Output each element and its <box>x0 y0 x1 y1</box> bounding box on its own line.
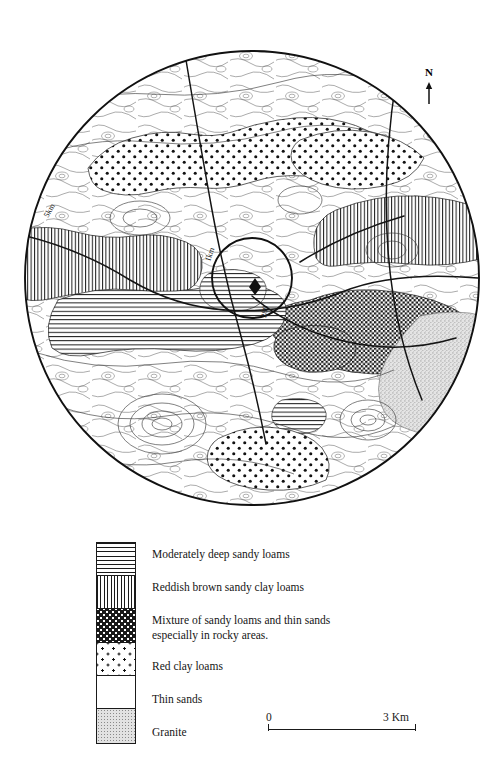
legend-label-mixture-sandy-loams-thin-sands: Mixture of sandy loams and thin sands es… <box>152 613 330 643</box>
scale-label-min: 0 <box>266 711 272 723</box>
scale-label-max: 3 Km <box>383 711 409 723</box>
legend-swatch-red-clay-loams <box>97 643 135 676</box>
legend-swatch-moderately-deep-sandy-loams <box>97 543 135 576</box>
map-legend: Moderately deep sandy loams Reddish brow… <box>0 528 503 758</box>
scale-bar: 0 3 Km <box>265 711 420 741</box>
scale-bar-line <box>268 729 416 730</box>
soil-map-figure: 5km 1km 280 N <box>0 0 503 520</box>
legend-label-moderately-deep-sandy-loams: Moderately deep sandy loams <box>152 547 290 562</box>
legend-swatch-granite <box>97 709 135 743</box>
legend-pattern-column <box>96 542 136 744</box>
scale-tick-right <box>415 724 416 731</box>
map-canvas: 5km 1km 280 N <box>0 0 503 520</box>
legend-label-red-clay-loams: Red clay loams <box>152 659 223 674</box>
legend-label-granite: Granite <box>152 725 186 740</box>
north-arrow-label: N <box>425 66 433 78</box>
legend-label-thin-sands: Thin sands <box>152 692 202 707</box>
legend-swatch-reddish-brown-sandy-clay-loams <box>97 576 135 609</box>
legend-swatch-thin-sands <box>97 676 135 709</box>
legend-swatch-mixture-sandy-loams-thin-sands <box>97 609 135 643</box>
legend-label-reddish-brown-sandy-clay-loams: Reddish brown sandy clay loams <box>152 580 304 595</box>
scale-tick-left <box>268 724 269 731</box>
